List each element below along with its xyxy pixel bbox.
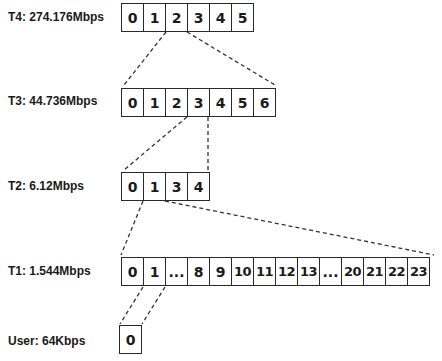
t1-slot: 20 xyxy=(341,257,364,286)
t1-to-user-left-line xyxy=(120,287,143,324)
t1-rate-label: T1: 1.544Mbps xyxy=(8,264,91,278)
t3-slot: 2 xyxy=(165,88,188,117)
t1-slot-ellipsis: ... xyxy=(319,257,342,286)
t1-slot: 1 xyxy=(143,257,166,286)
t4-slot: 0 xyxy=(121,3,144,32)
t1-slot: 22 xyxy=(385,257,408,286)
t2-slot: 3 xyxy=(165,172,188,201)
user-slot: 0 xyxy=(119,325,142,354)
t4-slot: 4 xyxy=(209,3,232,32)
t3-slot: 5 xyxy=(231,88,254,117)
t2-rate-label: T2: 6.12Mbps xyxy=(8,179,84,193)
t1-frame: 0 1 ... 8 9 10 11 12 13 ... 20 21 22 23 xyxy=(121,257,429,285)
t4-slot: 3 xyxy=(187,3,210,32)
t4-rate-label: T4: 274.176Mbps xyxy=(8,10,104,24)
t2-to-t1-right-line xyxy=(165,201,434,255)
t1-slot: 0 xyxy=(121,257,144,286)
t1-slot: 12 xyxy=(275,257,298,286)
t3-slot: 3 xyxy=(187,88,210,117)
t4-to-t3-left-line xyxy=(124,32,166,85)
t2-slot: 4 xyxy=(187,172,210,201)
t4-to-t3-right-line xyxy=(187,32,275,85)
t3-frame: 0 1 2 3 4 5 6 xyxy=(121,88,275,116)
t4-slot: 2 xyxy=(165,3,188,32)
t1-slot: 11 xyxy=(253,257,276,286)
t3-slot: 1 xyxy=(143,88,166,117)
t1-slot-ellipsis: ... xyxy=(165,257,188,286)
t3-slot: 4 xyxy=(209,88,232,117)
t1-slot: 21 xyxy=(363,257,386,286)
t1-slot: 10 xyxy=(231,257,254,286)
t4-slot: 1 xyxy=(143,3,166,32)
t4-frame: 0 1 2 3 4 5 xyxy=(121,3,253,31)
t1-slot: 9 xyxy=(209,257,232,286)
t3-slot: 0 xyxy=(121,88,144,117)
t1-to-user-right-line xyxy=(142,287,165,324)
t3-slot: 6 xyxy=(253,88,276,117)
user-frame: 0 xyxy=(119,325,141,353)
t2-to-t1-left-line xyxy=(121,201,143,255)
t2-slot: 1 xyxy=(143,172,166,201)
t2-frame: 0 1 3 4 xyxy=(121,172,209,200)
t1-slot: 8 xyxy=(187,257,210,286)
user-rate-label: User: 64Kbps xyxy=(8,334,85,348)
t2-slot: 0 xyxy=(121,172,144,201)
t3-rate-label: T3: 44.736Mbps xyxy=(8,94,97,108)
t4-slot: 5 xyxy=(231,3,254,32)
t1-slot: 23 xyxy=(407,257,430,286)
t3-to-t2-left-line xyxy=(124,117,187,170)
t1-slot: 13 xyxy=(297,257,320,286)
